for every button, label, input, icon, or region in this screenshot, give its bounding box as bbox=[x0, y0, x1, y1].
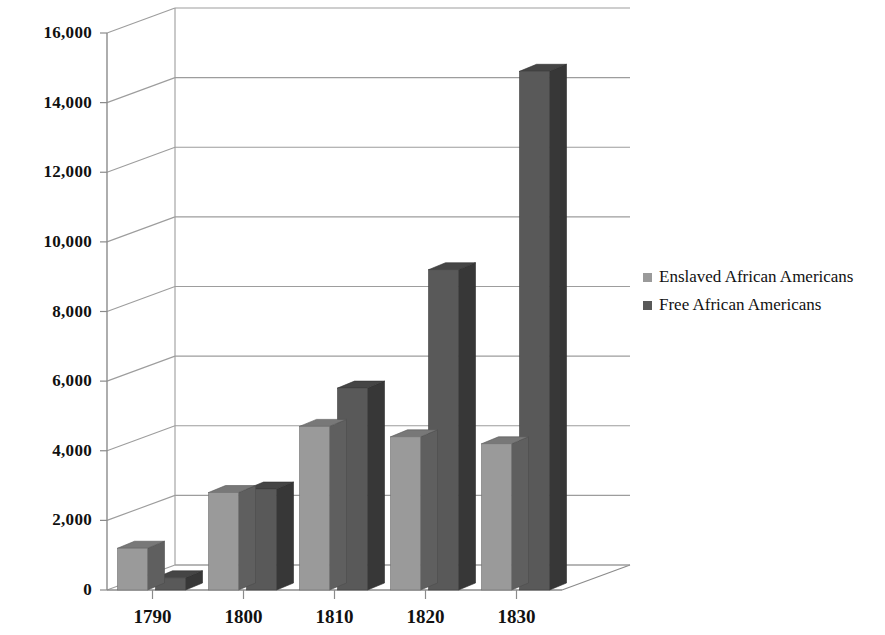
gridline-depth-16,000 bbox=[107, 8, 175, 33]
legend-swatch-icon bbox=[643, 273, 652, 282]
gridline-depth-6,000 bbox=[107, 356, 175, 381]
bar-1800-free-side bbox=[277, 482, 294, 590]
bar-1830-enslaved-side bbox=[512, 437, 529, 590]
gridline-depth-4,000 bbox=[107, 426, 175, 451]
legend-label: Enslaved African Americans bbox=[659, 268, 854, 287]
chart-legend: Enslaved African AmericansFree African A… bbox=[643, 268, 883, 323]
bar-1830-enslaved bbox=[482, 444, 512, 590]
gridline-depth-8,000 bbox=[107, 287, 175, 312]
bar-1810-enslaved-side bbox=[330, 419, 347, 590]
bar-1800-enslaved bbox=[209, 493, 239, 590]
chart-canvas: 02,0004,0006,0008,00010,00012,00014,0001… bbox=[0, 0, 885, 635]
bar-1830-free-side bbox=[550, 64, 567, 590]
x-axis-label-1820: 1820 bbox=[376, 607, 476, 626]
bar-1790-enslaved bbox=[118, 548, 148, 590]
bar-1820-free-side bbox=[459, 263, 476, 590]
bar-1810-enslaved bbox=[300, 426, 330, 590]
x-axis-label-1790: 1790 bbox=[103, 607, 203, 626]
gridline-depth-12,000 bbox=[107, 147, 175, 172]
gridline-depth-10,000 bbox=[107, 217, 175, 242]
x-axis-label-1800: 1800 bbox=[194, 607, 294, 626]
bar-1800-enslaved-side bbox=[239, 486, 256, 590]
floor-right-edge bbox=[562, 565, 630, 590]
bar-1820-enslaved-side bbox=[421, 430, 438, 590]
gridline-depth-14,000 bbox=[107, 78, 175, 103]
legend-label: Free African Americans bbox=[659, 296, 821, 315]
bar-1820-enslaved bbox=[391, 437, 421, 590]
x-axis-label-1830: 1830 bbox=[467, 607, 567, 626]
bar-1810-free-side bbox=[368, 381, 385, 590]
legend-swatch-icon bbox=[643, 301, 652, 310]
gridline-depth-2,000 bbox=[107, 495, 175, 520]
legend-item-free[interactable]: Free African Americans bbox=[643, 296, 883, 315]
x-axis-label-1810: 1810 bbox=[285, 607, 385, 626]
legend-item-enslaved[interactable]: Enslaved African Americans bbox=[643, 268, 883, 287]
bar-1790-enslaved-side bbox=[148, 541, 165, 590]
